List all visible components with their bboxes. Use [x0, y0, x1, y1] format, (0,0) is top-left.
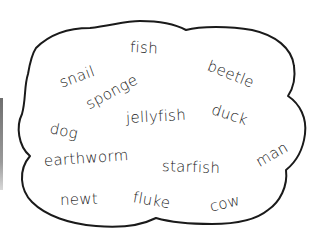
word-jellyfish: jellyfish — [126, 106, 187, 127]
word-fish: fish — [130, 38, 159, 57]
word-starfish: starfish — [162, 157, 221, 177]
word-newt: newt — [60, 190, 99, 209]
